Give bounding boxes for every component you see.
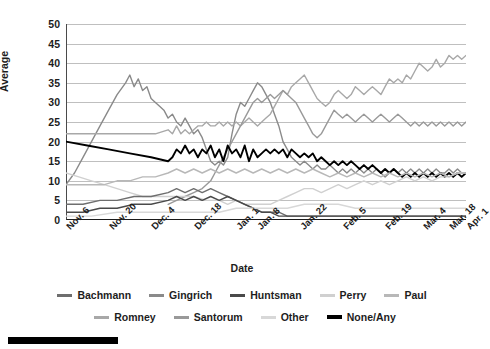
legend-label: Perry xyxy=(340,289,367,301)
series-line-santorum xyxy=(168,91,466,205)
legend-row-primary: BachmannGingrichHuntsmanPerryPaul xyxy=(0,284,484,306)
y-tick-label: 0 xyxy=(34,215,60,226)
legend-label: Other xyxy=(281,311,309,323)
legend-swatch-icon xyxy=(174,316,189,319)
legend-item-gingrich[interactable]: Gingrich xyxy=(149,289,212,301)
legend-label: Romney xyxy=(114,311,155,323)
legend-label: Gingrich xyxy=(169,289,212,301)
legend-swatch-icon xyxy=(327,315,342,319)
legend-swatch-icon xyxy=(149,294,164,297)
bottom-black-bar xyxy=(8,337,118,344)
y-tick-label: 50 xyxy=(34,19,60,30)
y-tick-label: 40 xyxy=(34,58,60,69)
legend-swatch-icon xyxy=(230,294,245,297)
y-tick-label: 15 xyxy=(34,156,60,167)
legend-swatch-icon xyxy=(94,316,109,319)
legend-item-huntsman[interactable]: Huntsman xyxy=(230,289,301,301)
legend-item-perry[interactable]: Perry xyxy=(320,289,367,301)
legend-item-santorum[interactable]: Santorum xyxy=(174,311,243,323)
y-tick-label: 25 xyxy=(34,117,60,128)
legend-swatch-icon xyxy=(320,294,335,297)
x-axis-title: Date xyxy=(0,262,484,274)
legend-label: Huntsman xyxy=(250,289,301,301)
legend-label: Bachmann xyxy=(77,289,131,301)
series-lines xyxy=(66,24,466,220)
y-tick-label: 45 xyxy=(34,39,60,50)
legend-item-none-any[interactable]: None/Any xyxy=(327,311,396,323)
y-tick-label: 35 xyxy=(34,78,60,89)
legend-swatch-icon xyxy=(384,294,399,297)
legend-item-romney[interactable]: Romney xyxy=(94,311,155,323)
legend-row-secondary: RomneySantorumOtherNone/Any xyxy=(0,306,484,328)
y-axis-title: Average xyxy=(0,51,10,92)
legend-item-bachmann[interactable]: Bachmann xyxy=(57,289,131,301)
legend-item-other[interactable]: Other xyxy=(261,311,309,323)
legend-swatch-icon xyxy=(57,294,72,297)
y-tick-label: 20 xyxy=(34,137,60,148)
y-tick-label: 5 xyxy=(34,195,60,206)
series-line-perry xyxy=(66,173,466,204)
y-tick-label: 30 xyxy=(34,97,60,108)
legend-label: Paul xyxy=(404,289,426,301)
legend-label: Santorum xyxy=(194,311,243,323)
y-tick-label: 10 xyxy=(34,176,60,187)
series-line-gingrich xyxy=(66,75,466,185)
legend-swatch-icon xyxy=(261,316,276,319)
legend-item-paul[interactable]: Paul xyxy=(384,289,426,301)
legend-label: None/Any xyxy=(347,311,396,323)
legend: BachmannGingrichHuntsmanPerryPaul Romney… xyxy=(0,284,484,328)
